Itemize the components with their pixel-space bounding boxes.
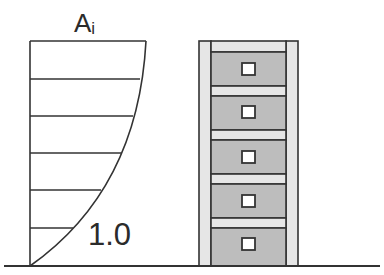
window (242, 63, 255, 75)
ai-distribution-diagram: Ai 1.0 (0, 0, 384, 275)
window (242, 151, 255, 163)
window (242, 238, 255, 250)
column-right (286, 41, 298, 266)
slab-band (211, 130, 286, 140)
slab-band (211, 174, 286, 184)
slab-band (211, 86, 286, 96)
slab-band (211, 218, 286, 228)
window (242, 195, 255, 207)
base-value-label: 1.0 (88, 217, 131, 252)
floor-1 (211, 218, 286, 266)
floor-4 (211, 86, 286, 130)
floor-3 (211, 130, 286, 174)
distribution-subscript: i (91, 19, 95, 38)
floor-5 (211, 41, 286, 86)
column-left (199, 41, 211, 266)
slab-band (211, 41, 286, 52)
window (242, 106, 255, 118)
distribution-label: Ai (74, 8, 95, 38)
building (199, 41, 298, 266)
floor-2 (211, 174, 286, 218)
